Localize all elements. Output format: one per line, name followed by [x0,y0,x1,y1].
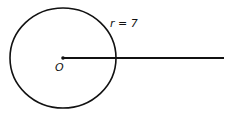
center-point [61,56,65,60]
circle-diagram: O r = 7 [0,0,230,115]
center-label: O [55,61,64,74]
radius-label: r = 7 [110,17,138,30]
